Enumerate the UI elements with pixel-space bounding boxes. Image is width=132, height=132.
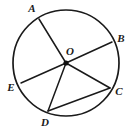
point-label-a: A [27, 2, 35, 14]
geometry-figure: A B C D E O [0, 0, 132, 132]
segment-co [66, 63, 110, 88]
segment-ao [39, 19, 66, 63]
segment-dc [48, 88, 110, 111]
point-label-b: B [116, 32, 124, 44]
point-label-o: O [66, 45, 74, 57]
point-label-e: E [6, 81, 14, 93]
circle-diagram-svg: A B C D E O [0, 0, 132, 132]
point-label-c: C [115, 85, 123, 97]
point-label-d: D [40, 116, 49, 128]
center-point-dot [63, 60, 68, 65]
